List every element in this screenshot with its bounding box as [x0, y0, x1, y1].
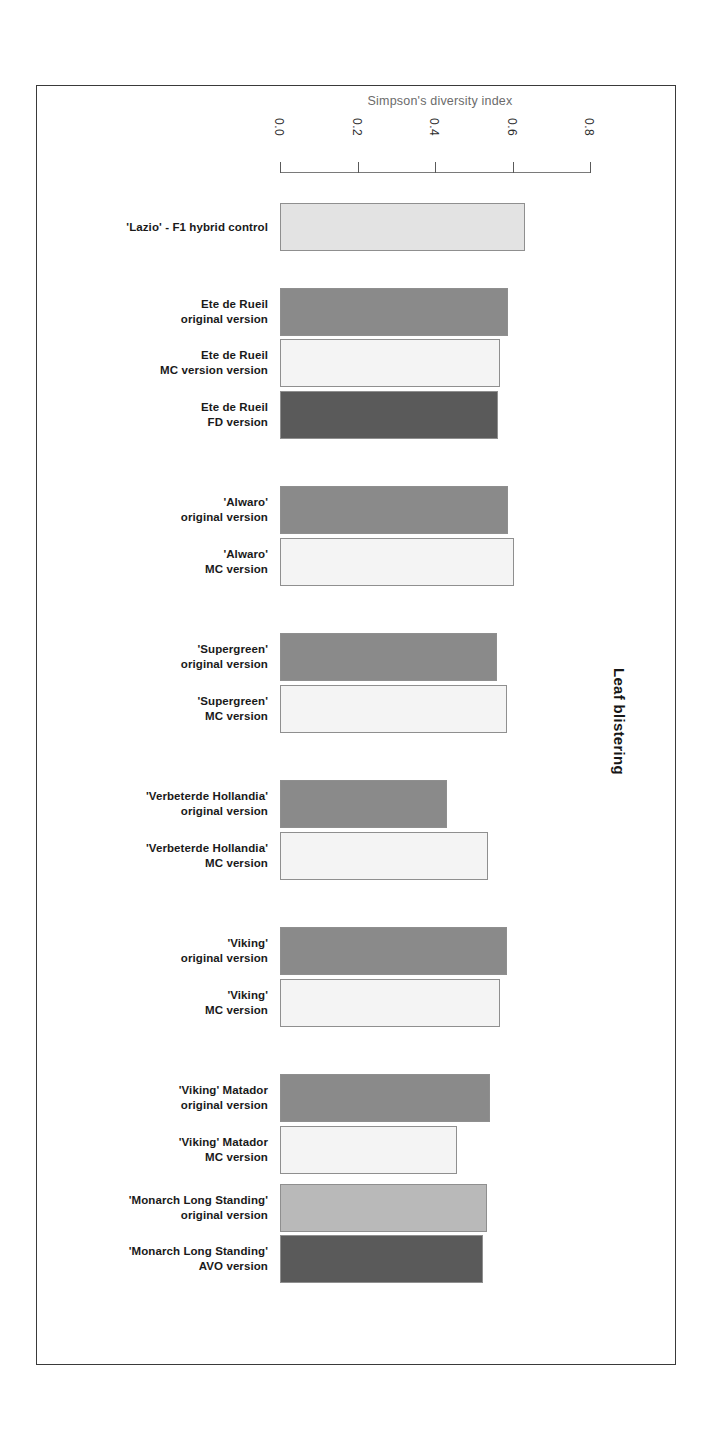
x-axis-tick-mark	[590, 162, 591, 173]
x-axis-tick-mark	[513, 162, 514, 173]
x-axis-tick-mark	[435, 162, 436, 173]
figure-frame	[36, 85, 676, 1365]
x-axis-tick-label: 0.8	[582, 118, 596, 136]
x-axis-tick-mark	[280, 162, 281, 173]
x-axis-tick-label: 0.2	[350, 118, 364, 136]
x-axis-tick-label: 0.0	[272, 118, 286, 136]
x-axis-title: Simpson's diversity index	[280, 94, 600, 108]
x-axis-tick-label: 0.4	[427, 118, 441, 136]
x-axis-tick-mark	[358, 162, 359, 173]
x-axis-tick-label: 0.6	[505, 118, 519, 136]
y-axis-group-label: Leaf blistering	[611, 668, 628, 775]
